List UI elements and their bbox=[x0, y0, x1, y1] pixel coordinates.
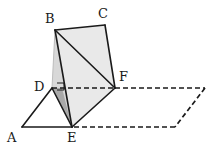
geometry-canvas bbox=[0, 0, 217, 154]
edge-p1-p2 bbox=[175, 88, 205, 127]
vertex-label-b: B bbox=[45, 12, 55, 25]
vertex-label-a: A bbox=[7, 131, 16, 144]
vertex-label-c: C bbox=[98, 7, 108, 20]
vertex-label-e: E bbox=[67, 131, 77, 144]
vertex-label-d: D bbox=[34, 80, 44, 93]
geometry-figure: A B C D E F bbox=[0, 0, 217, 154]
vertex-label-f: F bbox=[119, 70, 128, 83]
